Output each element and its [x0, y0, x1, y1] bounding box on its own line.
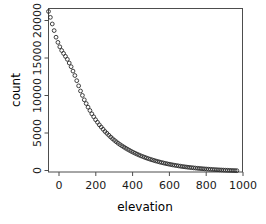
y-tick-label-0: 0 — [31, 167, 44, 174]
y-tick-label-15000: 15000 — [31, 41, 44, 76]
chart-figure: 0 200 400 600 800 1000 0 5000 10000 1500… — [0, 0, 266, 224]
x-axis-title: elevation — [117, 200, 173, 214]
x-tick-label-400: 400 — [122, 179, 143, 192]
y-axis-title: count — [9, 73, 23, 107]
x-tick-label-200: 200 — [85, 179, 106, 192]
scatter-plot: 0 200 400 600 800 1000 0 5000 10000 1500… — [0, 0, 266, 224]
x-tick-label-0: 0 — [56, 179, 63, 192]
x-tick-label-600: 600 — [159, 179, 180, 192]
y-tick-label-20000: 20000 — [31, 3, 44, 38]
x-tick-label-800: 800 — [196, 179, 217, 192]
y-tick-label-10000: 10000 — [31, 78, 44, 113]
x-tick-label-1000: 1000 — [229, 179, 257, 192]
y-tick-label-5000: 5000 — [31, 119, 44, 147]
